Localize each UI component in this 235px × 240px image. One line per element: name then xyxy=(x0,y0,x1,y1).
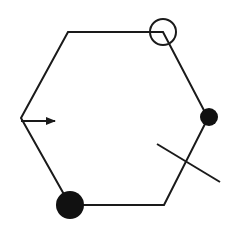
hexagon-outline xyxy=(21,32,208,205)
small-filled-circle-marker xyxy=(200,108,218,126)
hexagon-diagram xyxy=(0,0,235,240)
large-filled-circle-marker xyxy=(56,191,84,219)
cross-line xyxy=(157,144,220,182)
